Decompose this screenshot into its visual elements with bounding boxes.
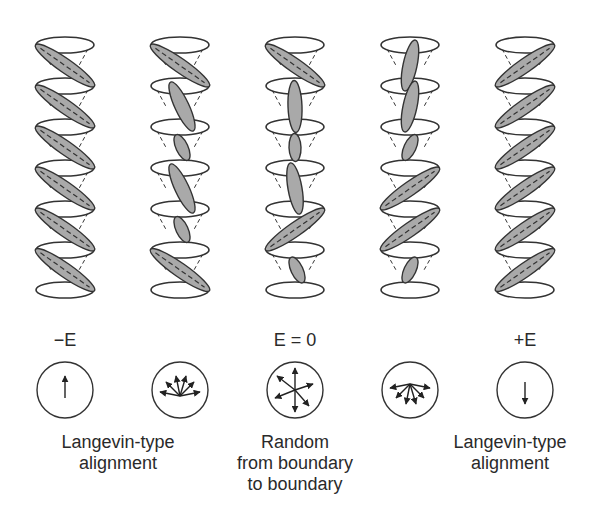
helix-column-2	[146, 37, 213, 298]
molecule	[399, 255, 422, 285]
circle-2-fan-up-arrows	[152, 362, 208, 418]
caption-line: alignment	[61, 453, 174, 474]
molecule	[289, 133, 302, 161]
helix-column-4	[376, 37, 443, 298]
caption-line: Langevin-type	[453, 432, 566, 453]
caption-line: Langevin-type	[61, 432, 174, 453]
cone-base-ellipse	[151, 119, 209, 135]
helix-column-3	[261, 37, 328, 298]
caption-line: alignment	[453, 453, 566, 474]
molecule	[286, 255, 309, 285]
circle-1-up-arrows	[37, 362, 93, 418]
caption: Randomfrom boundaryto boundary	[237, 432, 353, 495]
circle-3-random-arrows	[267, 362, 323, 418]
circle-4-fan-down-arrows	[382, 362, 438, 418]
helix-column-1	[31, 37, 98, 298]
helix-column-5	[491, 37, 558, 298]
field-label: −E	[54, 330, 77, 351]
cone-base-ellipse	[151, 201, 209, 217]
field-label: E = 0	[274, 330, 317, 351]
caption: Langevin-typealignment	[61, 432, 174, 474]
molecule	[171, 214, 194, 244]
cone-base-ellipse	[381, 282, 439, 298]
molecule	[171, 132, 194, 162]
caption-line: Random	[237, 432, 353, 453]
caption: Langevin-typealignment	[453, 432, 566, 474]
cone-base-ellipse	[266, 282, 324, 298]
field-label: +E	[514, 330, 537, 351]
molecule	[399, 132, 422, 162]
caption-line: from boundary	[237, 453, 353, 474]
caption-line: to boundary	[237, 474, 353, 495]
circle-5-down-arrows	[497, 362, 553, 418]
